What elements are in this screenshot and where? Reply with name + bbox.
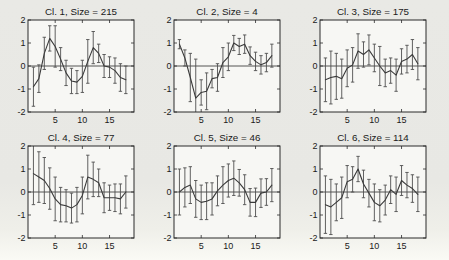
y-tick-label: -1 <box>17 84 25 94</box>
y-tick-label: 1 <box>312 164 317 174</box>
x-tick-label: 10 <box>223 241 233 251</box>
plot-canvas-cl-5: -2-101251015Cl. 5, Size = 46 <box>148 132 289 256</box>
y-tick-label: -1 <box>163 84 171 94</box>
x-tick-label: 5 <box>345 241 350 251</box>
plot-canvas-cl-1: -2-101251015Cl. 1, Size = 215 <box>2 6 143 130</box>
y-tick-label: 2 <box>20 141 25 151</box>
subplot-cl-5: -2-101251015Cl. 5, Size = 46 <box>148 132 289 256</box>
x-tick-label: 15 <box>397 241 407 251</box>
subplot-title: Cl. 3, Size = 175 <box>337 6 410 17</box>
x-tick-label: 15 <box>251 241 261 251</box>
y-tick-label: -2 <box>17 233 25 243</box>
y-tick-label: -2 <box>309 233 317 243</box>
subplot-cl-4: -2-101251015Cl. 4, Size = 77 <box>2 132 143 256</box>
y-tick-label: 0 <box>20 61 25 71</box>
subplot-title: Cl. 1, Size = 215 <box>45 6 118 17</box>
plot-canvas-cl-6: -2-101251015Cl. 6, Size = 114 <box>294 132 435 256</box>
y-tick-label: 1 <box>312 38 317 48</box>
y-tick-label: 2 <box>312 141 317 151</box>
subplot-grid: -2-101251015Cl. 1, Size = 215-2-10125101… <box>0 0 449 256</box>
y-tick-label: -1 <box>17 210 25 220</box>
subplot-cl-2: -2-101251015Cl. 2, Size = 4 <box>148 6 289 130</box>
matlab-figure: -2-101251015Cl. 1, Size = 215-2-10125101… <box>0 0 449 256</box>
y-tick-label: 1 <box>166 38 171 48</box>
y-tick-label: 0 <box>20 187 25 197</box>
y-tick-label: 1 <box>20 38 25 48</box>
y-tick-label: -2 <box>17 107 25 117</box>
subplot-title: Cl. 2, Size = 4 <box>196 6 258 17</box>
x-tick-label: 10 <box>77 115 87 125</box>
y-tick-label: -2 <box>309 107 317 117</box>
x-tick-label: 15 <box>397 115 407 125</box>
y-tick-label: 0 <box>312 61 317 71</box>
y-tick-label: -2 <box>163 233 171 243</box>
y-tick-label: 2 <box>20 15 25 25</box>
y-tick-label: -1 <box>309 210 317 220</box>
subplot-title: Cl. 5, Size = 46 <box>194 132 261 143</box>
x-tick-label: 5 <box>53 115 58 125</box>
y-tick-label: 2 <box>166 141 171 151</box>
x-tick-label: 15 <box>105 241 115 251</box>
x-tick-label: 10 <box>223 115 233 125</box>
y-tick-label: 1 <box>166 164 171 174</box>
x-tick-label: 10 <box>369 241 379 251</box>
y-tick-label: 1 <box>20 164 25 174</box>
y-tick-label: 2 <box>312 15 317 25</box>
x-tick-label: 5 <box>53 241 58 251</box>
x-tick-label: 15 <box>105 115 115 125</box>
x-tick-label: 10 <box>369 115 379 125</box>
x-tick-label: 5 <box>345 115 350 125</box>
subplot-cl-6: -2-101251015Cl. 6, Size = 114 <box>294 132 435 256</box>
y-tick-label: 2 <box>166 15 171 25</box>
plot-canvas-cl-3: -2-101251015Cl. 3, Size = 175 <box>294 6 435 130</box>
y-tick-label: -1 <box>163 210 171 220</box>
subplot-title: Cl. 6, Size = 114 <box>337 132 409 143</box>
y-tick-label: -2 <box>163 107 171 117</box>
y-tick-label: -1 <box>309 84 317 94</box>
subplot-cl-3: -2-101251015Cl. 3, Size = 175 <box>294 6 435 130</box>
subplot-cl-1: -2-101251015Cl. 1, Size = 215 <box>2 6 143 130</box>
plot-canvas-cl-2: -2-101251015Cl. 2, Size = 4 <box>148 6 289 130</box>
y-tick-label: 0 <box>166 61 171 71</box>
y-tick-label: 0 <box>312 187 317 197</box>
x-tick-label: 15 <box>251 115 261 125</box>
x-tick-label: 10 <box>77 241 87 251</box>
plot-canvas-cl-4: -2-101251015Cl. 4, Size = 77 <box>2 132 143 256</box>
subplot-title: Cl. 4, Size = 77 <box>48 132 115 143</box>
x-tick-label: 5 <box>199 241 204 251</box>
x-tick-label: 5 <box>199 115 204 125</box>
y-tick-label: 0 <box>166 187 171 197</box>
